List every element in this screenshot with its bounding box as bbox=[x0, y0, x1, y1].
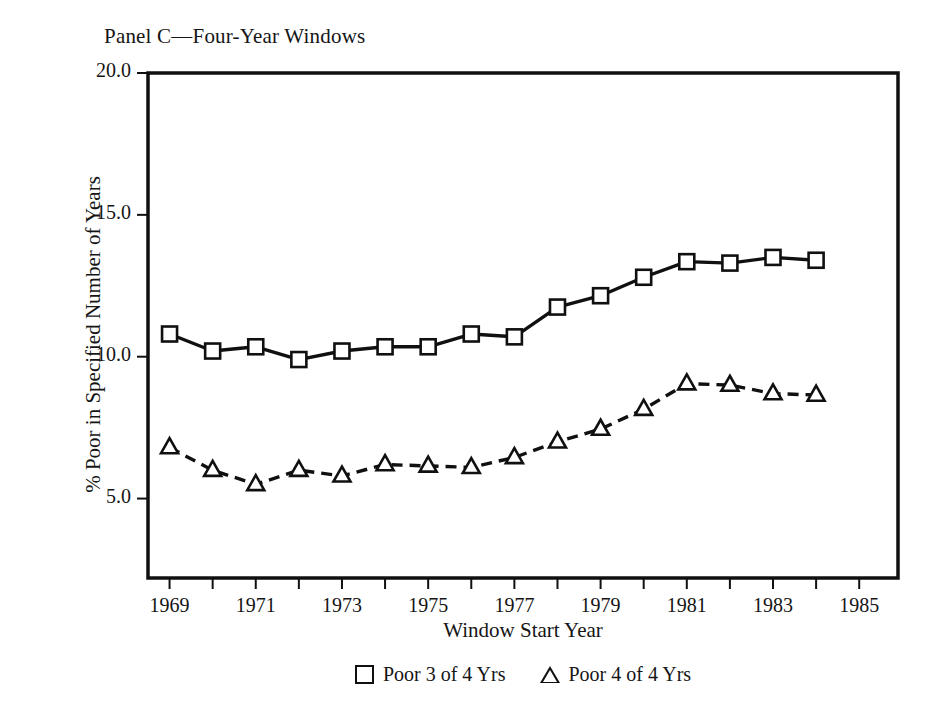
data-point-triangle bbox=[549, 433, 566, 448]
data-point-square bbox=[334, 344, 349, 359]
legend-entry-poor-3-of-4: Poor 3 of 4 Yrs bbox=[355, 663, 506, 686]
x-tick-label: 1975 bbox=[383, 594, 473, 617]
series-line bbox=[170, 384, 817, 485]
x-tick-label: 1985 bbox=[814, 594, 904, 617]
legend-label: Poor 4 of 4 Yrs bbox=[569, 663, 692, 686]
data-point-square bbox=[679, 254, 694, 269]
data-point-triangle bbox=[420, 457, 437, 472]
data-point-square bbox=[464, 327, 479, 342]
data-point-triangle bbox=[765, 384, 782, 399]
legend-entry-poor-4-of-4: Poor 4 of 4 Yrs bbox=[540, 663, 692, 686]
data-point-square bbox=[722, 256, 737, 271]
data-point-square bbox=[766, 250, 781, 265]
x-tick-label: 1981 bbox=[642, 594, 732, 617]
data-point-square bbox=[421, 339, 436, 354]
data-point-square bbox=[809, 253, 824, 268]
data-point-square bbox=[291, 352, 306, 367]
axis-frame bbox=[148, 73, 898, 578]
square-outline-icon bbox=[355, 665, 374, 684]
data-point-triangle bbox=[290, 461, 307, 476]
y-tick-label: 15.0 bbox=[41, 201, 131, 224]
data-point-triangle bbox=[377, 455, 394, 470]
data-point-square bbox=[205, 344, 220, 359]
series-layer bbox=[161, 250, 825, 490]
axis-ticks bbox=[137, 73, 859, 589]
chart-figure: Panel C—Four-Year Windows % Poor in Spec… bbox=[0, 0, 940, 720]
chart-legend: Poor 3 of 4 Yrs Poor 4 of 4 Yrs bbox=[148, 663, 898, 686]
series-line bbox=[170, 257, 817, 359]
data-point-square bbox=[593, 288, 608, 303]
data-point-triangle bbox=[635, 400, 652, 415]
data-point-square bbox=[248, 339, 263, 354]
x-tick-label: 1969 bbox=[125, 594, 215, 617]
x-tick-label: 1971 bbox=[211, 594, 301, 617]
legend-label: Poor 3 of 4 Yrs bbox=[383, 663, 506, 686]
y-tick-label: 5.0 bbox=[41, 485, 131, 508]
x-tick-label: 1983 bbox=[728, 594, 818, 617]
data-point-triangle bbox=[678, 374, 695, 389]
x-tick-label: 1977 bbox=[469, 594, 559, 617]
data-point-triangle bbox=[161, 438, 178, 453]
data-point-square bbox=[636, 270, 651, 285]
x-tick-label: 1979 bbox=[556, 594, 646, 617]
data-point-square bbox=[378, 339, 393, 354]
y-tick-label: 20.0 bbox=[41, 59, 131, 82]
data-point-square bbox=[162, 327, 177, 342]
data-point-square bbox=[550, 300, 565, 315]
y-tick-label: 10.0 bbox=[41, 343, 131, 366]
x-tick-label: 1973 bbox=[297, 594, 387, 617]
triangle-outline-icon bbox=[540, 666, 560, 683]
x-axis-title: Window Start Year bbox=[148, 618, 898, 643]
data-point-square bbox=[507, 329, 522, 344]
